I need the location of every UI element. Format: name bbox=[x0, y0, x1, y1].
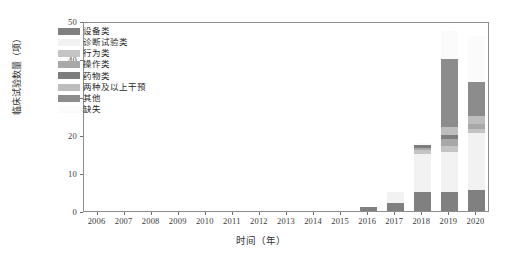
y-tick-label: 20 bbox=[27, 131, 77, 141]
bar-stack bbox=[360, 207, 377, 211]
x-tick-mark bbox=[394, 212, 395, 215]
y-axis-title: 临床试验数量（项） bbox=[10, 15, 23, 135]
legend-item: 缺失 bbox=[58, 104, 146, 114]
legend-item-label: 诊断试验类 bbox=[83, 38, 128, 47]
legend-item-label: 设备类 bbox=[83, 27, 110, 36]
bar-segment bbox=[441, 127, 458, 135]
chart-figure: 临床试验数量（项） 010203040502006200720082009201… bbox=[0, 0, 521, 270]
bar-segment bbox=[468, 190, 485, 211]
x-tick-mark bbox=[286, 212, 287, 215]
bar-segment bbox=[414, 192, 431, 211]
y-tick-label: 10 bbox=[27, 169, 77, 179]
bar-segment bbox=[468, 116, 485, 124]
legend-swatch-icon bbox=[58, 28, 80, 35]
legend-swatch-icon bbox=[58, 39, 80, 46]
bar-segment bbox=[441, 192, 458, 211]
x-tick-mark bbox=[232, 212, 233, 215]
x-tick-mark bbox=[448, 212, 449, 215]
bar-segment bbox=[468, 36, 485, 82]
bar-segment bbox=[441, 31, 458, 60]
bar-segment bbox=[360, 207, 377, 211]
y-tick-mark bbox=[80, 22, 83, 23]
y-tick-mark bbox=[80, 136, 83, 137]
x-tick-mark bbox=[367, 212, 368, 215]
legend-swatch-icon bbox=[58, 106, 80, 113]
legend-item-label: 缺失 bbox=[83, 105, 101, 114]
bar-segment bbox=[441, 152, 458, 192]
legend-item-label: 药物类 bbox=[83, 72, 110, 81]
y-tick-mark bbox=[80, 174, 83, 175]
legend-swatch-icon bbox=[58, 61, 80, 68]
x-tick-mark bbox=[97, 212, 98, 215]
legend-item-label: 其他 bbox=[83, 94, 101, 103]
bar-stack bbox=[468, 36, 485, 211]
legend-item: 药物类 bbox=[58, 71, 146, 81]
legend-item: 其他 bbox=[58, 93, 146, 103]
chart-legend: 设备类诊断试验类行为类操作类药物类两种及以上干预其他缺失 bbox=[58, 26, 146, 115]
x-tick-mark bbox=[259, 212, 260, 215]
bar-segment bbox=[414, 154, 431, 192]
legend-swatch-icon bbox=[58, 50, 80, 57]
x-axis-title: 时间（年） bbox=[0, 233, 521, 247]
x-tick-mark bbox=[151, 212, 152, 215]
bar-segment bbox=[387, 203, 404, 211]
legend-item: 两种及以上干预 bbox=[58, 82, 146, 92]
y-tick-label: 0 bbox=[27, 207, 77, 217]
bar-stack bbox=[414, 143, 431, 211]
x-tick-label: 2020 bbox=[455, 216, 495, 226]
legend-swatch-icon bbox=[58, 95, 80, 102]
legend-item-label: 操作类 bbox=[83, 60, 110, 69]
bar-segment bbox=[468, 133, 485, 190]
x-tick-mark bbox=[124, 212, 125, 215]
legend-swatch-icon bbox=[58, 84, 80, 91]
y-tick-mark bbox=[80, 212, 83, 213]
legend-item: 行为类 bbox=[58, 48, 146, 58]
bar-stack bbox=[387, 192, 404, 211]
bar-stack bbox=[441, 31, 458, 211]
legend-item: 操作类 bbox=[58, 60, 146, 70]
legend-item-label: 两种及以上干预 bbox=[83, 83, 146, 92]
legend-item-label: 行为类 bbox=[83, 49, 110, 58]
legend-item: 设备类 bbox=[58, 26, 146, 36]
bar-segment bbox=[441, 59, 458, 127]
x-tick-mark bbox=[475, 212, 476, 215]
bar-segment bbox=[468, 82, 485, 116]
bar-segment bbox=[441, 139, 458, 147]
legend-item: 诊断试验类 bbox=[58, 37, 146, 47]
x-tick-mark bbox=[205, 212, 206, 215]
x-tick-mark bbox=[421, 212, 422, 215]
bar-segment bbox=[387, 192, 404, 203]
x-tick-mark bbox=[340, 212, 341, 215]
x-tick-mark bbox=[313, 212, 314, 215]
legend-swatch-icon bbox=[58, 72, 80, 79]
x-tick-mark bbox=[178, 212, 179, 215]
